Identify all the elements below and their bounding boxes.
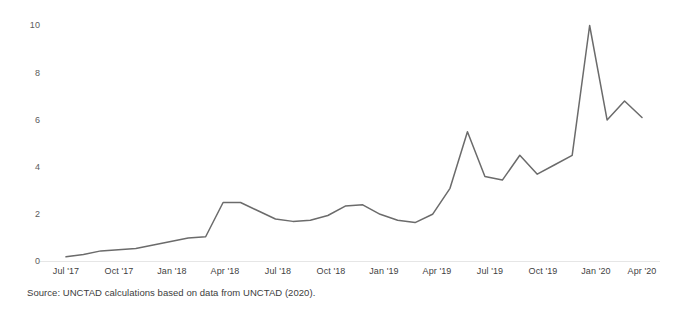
x-tick-label-oct-18: Oct '18 (301, 266, 361, 276)
y-tick-label-8: 8 (16, 68, 40, 78)
x-tick-label-jan-19: Jan '19 (354, 266, 414, 276)
chart-figure: 10 8 6 4 2 0 Jul '17 Oct '17 Jan '18 Apr… (0, 0, 678, 311)
x-tick-label-oct-19: Oct '19 (513, 266, 573, 276)
y-tick-label-4: 4 (16, 162, 40, 172)
y-tick-label-10: 10 (16, 20, 40, 30)
x-tick-label-apr-19: Apr '19 (407, 266, 467, 276)
y-tick-label-6: 6 (16, 115, 40, 125)
line-chart-plot (0, 0, 678, 311)
y-tick-label-2: 2 (16, 209, 40, 219)
x-tick-label-jul-17: Jul '17 (36, 266, 96, 276)
x-tick-label-oct-17: Oct '17 (89, 266, 149, 276)
x-tick-label-jul-18: Jul '18 (248, 266, 308, 276)
data-series-line (66, 26, 642, 257)
x-tick-label-apr-20: Apr '20 (612, 266, 672, 276)
x-tick-label-apr-18: Apr '18 (195, 266, 255, 276)
source-note: Source: UNCTAD calculations based on dat… (27, 287, 315, 298)
x-tick-label-jul-19: Jul '19 (460, 266, 520, 276)
y-tick-label-0: 0 (16, 256, 40, 266)
x-tick-label-jan-18: Jan '18 (142, 266, 202, 276)
